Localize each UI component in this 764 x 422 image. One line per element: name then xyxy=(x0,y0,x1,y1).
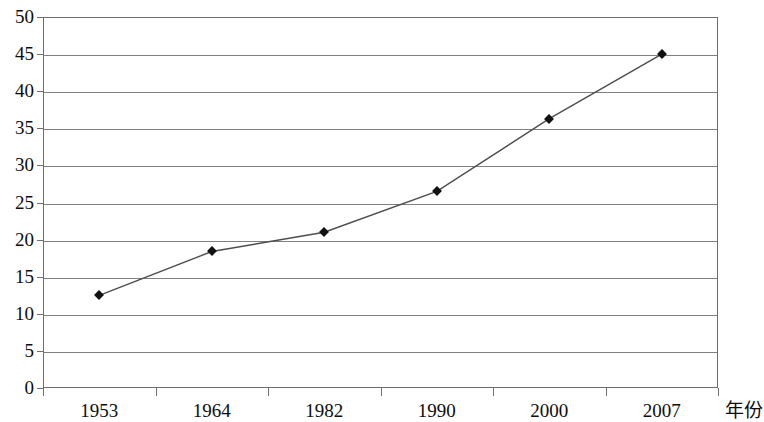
series-line xyxy=(0,0,764,422)
x-axis-title: 年份 xyxy=(725,401,763,420)
line-chart: 05101520253035404550 1953196419821990200… xyxy=(0,0,764,422)
